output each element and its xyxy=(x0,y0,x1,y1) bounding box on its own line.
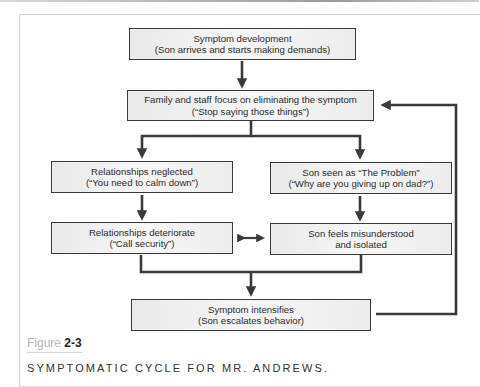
box-title: Family and staff focus on eliminating th… xyxy=(144,94,357,105)
box-son-feels-misunderstood: Son feels misunderstood and isolated xyxy=(270,223,452,255)
figure-label: Figure 2-3 xyxy=(27,336,82,353)
box-relationships-neglected: Relationships neglected (“You need to ca… xyxy=(51,161,233,193)
box-subtitle: (Son arrives and starts making demands) xyxy=(155,44,330,55)
arrow-split-left-icon xyxy=(142,121,251,154)
box-subtitle: and isolated xyxy=(335,239,387,250)
box-family-staff-focus: Family and staff focus on eliminating th… xyxy=(127,90,374,121)
box-subtitle: (“Call security”) xyxy=(109,238,174,249)
box-symptom-development: Symptom development (Son arrives and sta… xyxy=(129,28,356,60)
box-title: Relationships neglected xyxy=(91,166,193,177)
figure-word: Figure xyxy=(27,336,61,350)
box-title: Son seen as “The Problem” xyxy=(302,167,419,178)
box-relationships-deteriorate: Relationships deteriorate (“Call securit… xyxy=(51,222,233,254)
box-symptom-intensifies: Symptom intensifies (Son escalates behav… xyxy=(131,299,371,331)
figure-caption: SYMPTOMATIC CYCLE FOR MR. ANDREWS. xyxy=(27,362,329,374)
box-title: Relationships deteriorate xyxy=(89,227,195,238)
box-title: Symptom development xyxy=(193,33,291,44)
box-subtitle: (Son escalates behavior) xyxy=(198,315,304,326)
box-subtitle: (“You need to calm down”) xyxy=(86,177,198,188)
feedback-loop-arrow-icon xyxy=(376,105,456,314)
box-title: Son feels misunderstood xyxy=(308,228,414,239)
box-subtitle: (“Why are you giving up on dad?”) xyxy=(288,178,433,189)
arrow-split-right-icon xyxy=(251,136,360,155)
figure-number: 2-3 xyxy=(64,336,81,350)
merge-line xyxy=(141,255,361,272)
box-subtitle: (“Stop saying those things”) xyxy=(192,106,309,117)
box-son-seen-as-problem: Son seen as “The Problem” (“Why are you … xyxy=(270,162,452,194)
box-title: Symptom intensifies xyxy=(208,304,294,315)
